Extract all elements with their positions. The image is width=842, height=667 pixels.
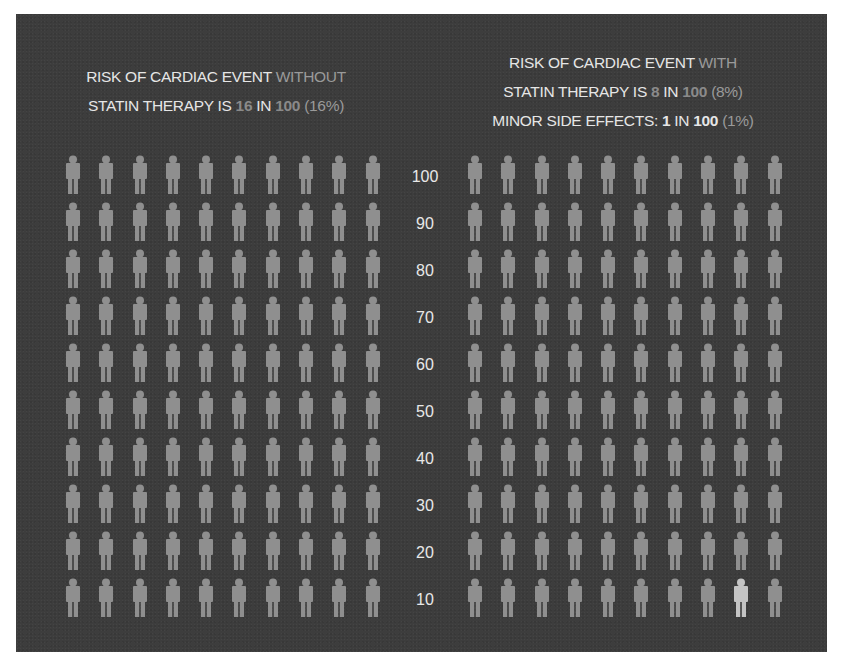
side-effect-percent: (1%)	[718, 112, 754, 129]
person-icon	[98, 578, 114, 618]
figure-cell	[758, 341, 791, 388]
person-icon	[633, 249, 649, 289]
person-icon	[265, 343, 281, 383]
person-icon	[567, 343, 583, 383]
figure-cell	[56, 388, 89, 435]
person-icon	[500, 531, 516, 571]
right-title-text: STATIN THERAPY IS	[503, 83, 651, 100]
figure-row	[458, 247, 791, 294]
figure-cell	[758, 247, 791, 294]
person-icon	[265, 296, 281, 336]
person-icon	[700, 249, 716, 289]
figure-cell	[322, 341, 355, 388]
person-icon	[467, 484, 483, 524]
figure-cell	[691, 388, 724, 435]
person-icon	[767, 484, 783, 524]
figure-cell	[525, 247, 558, 294]
figure-cell	[256, 294, 289, 341]
person-icon	[600, 531, 616, 571]
person-icon	[65, 202, 81, 242]
right-title: RISK OF CARDIAC EVENT WITH STATIN THERAP…	[418, 48, 828, 135]
figure-cell	[525, 341, 558, 388]
person-icon	[600, 484, 616, 524]
person-icon	[733, 437, 749, 477]
figure-cell	[89, 576, 122, 623]
person-icon	[733, 390, 749, 430]
person-icon	[231, 202, 247, 242]
pictograph-with-statin	[458, 153, 791, 623]
figure-cell	[156, 482, 189, 529]
person-icon	[331, 578, 347, 618]
person-icon	[365, 437, 381, 477]
figure-cell	[123, 341, 156, 388]
person-icon	[700, 296, 716, 336]
person-icon	[231, 531, 247, 571]
person-icon	[667, 437, 683, 477]
person-icon	[231, 484, 247, 524]
figure-cell	[89, 435, 122, 482]
person-icon	[365, 155, 381, 195]
person-icon	[231, 296, 247, 336]
figure-cell	[458, 388, 491, 435]
without-label: WITHOUT	[276, 68, 346, 85]
figure-cell	[624, 482, 657, 529]
figure-cell	[56, 294, 89, 341]
figure-cell	[758, 435, 791, 482]
axis-tick-label: 80	[400, 247, 450, 294]
right-title-line-2: STATIN THERAPY IS 8 IN 100 (8%)	[418, 77, 828, 106]
person-icon	[331, 531, 347, 571]
figure-cell	[591, 153, 624, 200]
figure-row	[458, 435, 791, 482]
figure-cell	[624, 294, 657, 341]
figure-cell	[89, 247, 122, 294]
person-icon	[733, 343, 749, 383]
person-icon	[165, 484, 181, 524]
person-icon	[534, 155, 550, 195]
row-count-axis: 100908070605040302010	[400, 153, 450, 623]
person-icon	[467, 437, 483, 477]
person-icon	[633, 484, 649, 524]
person-icon	[132, 202, 148, 242]
person-icon	[98, 484, 114, 524]
figure-cell	[256, 200, 289, 247]
person-icon	[700, 202, 716, 242]
figure-row	[458, 388, 791, 435]
person-icon	[633, 155, 649, 195]
person-icon	[500, 484, 516, 524]
person-icon	[132, 484, 148, 524]
person-icon	[467, 390, 483, 430]
person-icon	[534, 437, 550, 477]
person-icon	[500, 578, 516, 618]
person-icon	[733, 202, 749, 242]
person-icon	[667, 484, 683, 524]
person-icon	[98, 390, 114, 430]
person-icon	[98, 296, 114, 336]
person-icon	[500, 249, 516, 289]
axis-tick-label: 10	[400, 576, 450, 623]
person-icon	[600, 578, 616, 618]
figure-row	[458, 153, 791, 200]
person-icon	[567, 484, 583, 524]
person-icon	[600, 437, 616, 477]
figure-row	[458, 576, 791, 623]
person-icon	[265, 155, 281, 195]
figure-cell	[356, 529, 389, 576]
person-icon	[600, 343, 616, 383]
figure-cell	[256, 153, 289, 200]
figure-cell	[356, 341, 389, 388]
figure-row	[56, 341, 389, 388]
figure-cell	[189, 576, 222, 623]
figure-cell	[458, 576, 491, 623]
person-icon	[365, 249, 381, 289]
figure-cell	[56, 200, 89, 247]
axis-tick-label: 100	[400, 153, 450, 200]
person-icon	[65, 249, 81, 289]
figure-cell	[491, 388, 524, 435]
person-icon	[231, 390, 247, 430]
figure-cell	[491, 294, 524, 341]
figure-cell	[724, 482, 757, 529]
axis-tick-label: 30	[400, 482, 450, 529]
person-icon	[231, 249, 247, 289]
figure-cell	[591, 247, 624, 294]
figure-cell	[724, 435, 757, 482]
